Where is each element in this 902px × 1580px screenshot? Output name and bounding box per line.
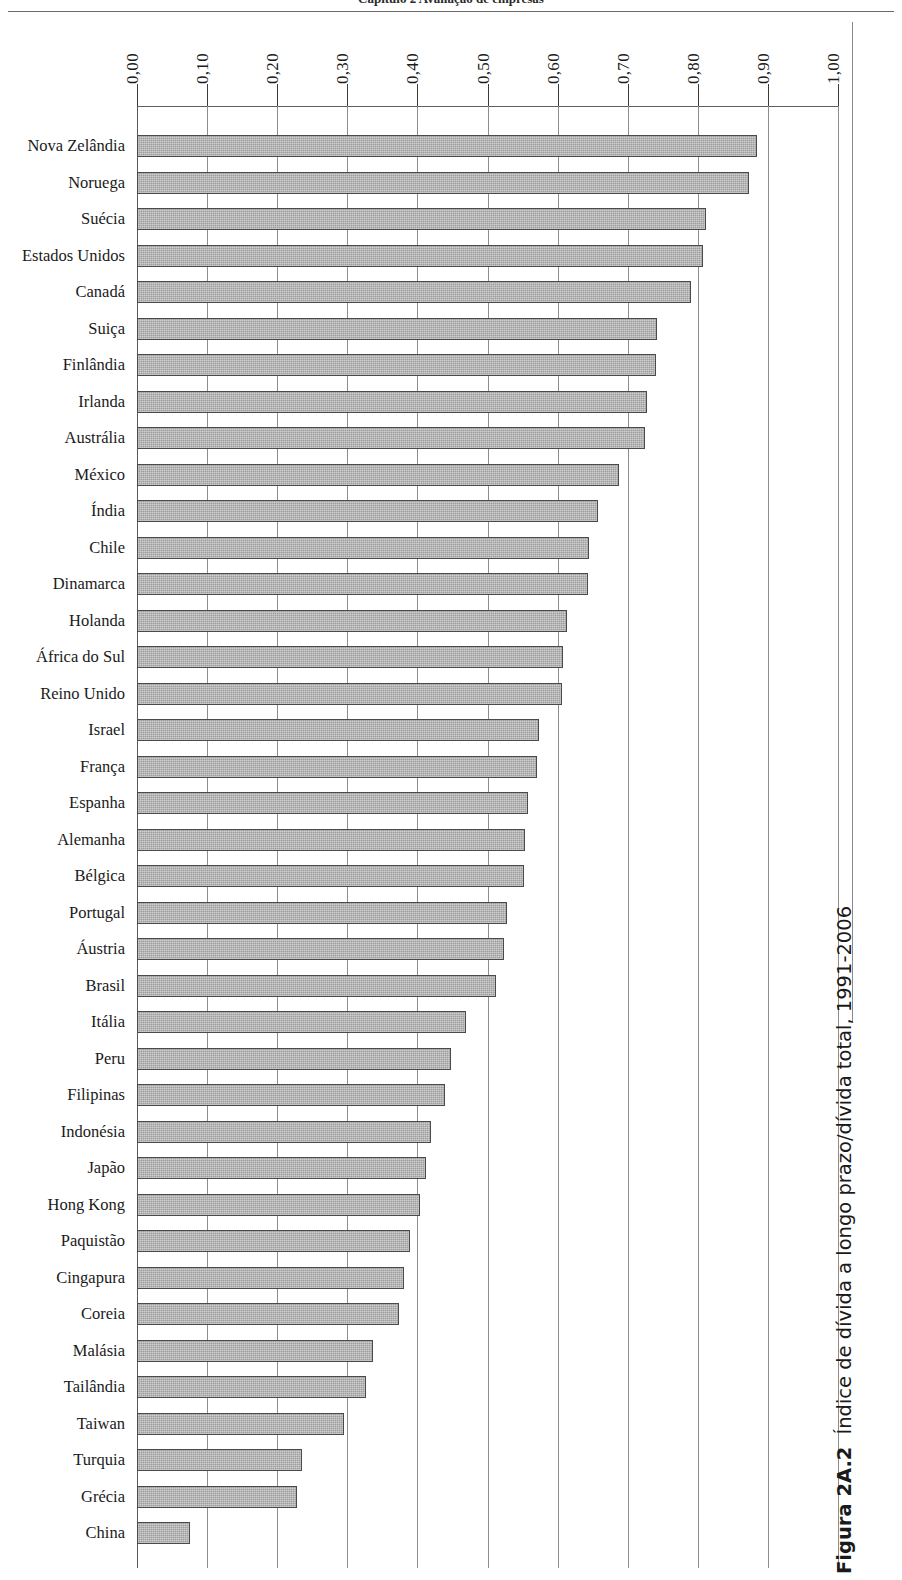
figure-page: Capítulo 2 Avaliação de empresas 0,000,1…	[0, 0, 902, 1580]
bar-row-label: México	[0, 457, 131, 494]
bar-row-label: Holanda	[0, 603, 131, 640]
bar	[137, 208, 706, 230]
bar-row-label: Grécia	[0, 1479, 131, 1516]
bar	[137, 1011, 466, 1033]
running-header: Capítulo 2 Avaliação de empresas	[0, 0, 902, 10]
bar-row-label: Estados Unidos	[0, 238, 131, 275]
bar-row: Austrália	[0, 420, 848, 457]
bar-row: Portugal	[0, 895, 848, 932]
bar-row-label: Bélgica	[0, 858, 131, 895]
bar	[137, 829, 525, 851]
bar-row: Espanha	[0, 785, 848, 822]
bar	[137, 683, 562, 705]
bar	[137, 245, 703, 267]
figure-number: Figura 2A.2	[833, 1447, 856, 1574]
bar	[137, 537, 589, 559]
bar	[137, 391, 647, 413]
axis-tick	[558, 84, 559, 106]
bar	[137, 1486, 297, 1508]
axis-tick	[488, 84, 489, 106]
axis-tick	[838, 84, 839, 106]
bar-row-label: Dinamarca	[0, 566, 131, 603]
bar-row-label: Portugal	[0, 895, 131, 932]
bar-row: Cingapura	[0, 1260, 848, 1297]
bar-row: França	[0, 749, 848, 786]
bar-row: Itália	[0, 1004, 848, 1041]
axis-tick-label: 0,60	[544, 53, 564, 84]
bar-row-label: França	[0, 749, 131, 786]
bar-row: Indonésia	[0, 1114, 848, 1151]
bar	[137, 1230, 410, 1252]
bar-row: Bélgica	[0, 858, 848, 895]
figure-caption: Figura 2A.2Índice de dívida a longo praz…	[856, 374, 902, 1574]
axis-tick-label: 0,50	[474, 53, 494, 84]
bar	[137, 975, 496, 997]
axis-tick-label: 0,80	[684, 53, 704, 84]
bar	[137, 1449, 302, 1471]
bar-row: Suiça	[0, 311, 848, 348]
bar-row: Grécia	[0, 1479, 848, 1516]
bar	[137, 354, 656, 376]
bar	[137, 1194, 420, 1216]
bar-row-label: Nova Zelândia	[0, 128, 131, 165]
bar-row-label: Suécia	[0, 201, 131, 238]
bar-row-label: Tailândia	[0, 1369, 131, 1406]
bar-row-label: Canadá	[0, 274, 131, 311]
bar-row-label: Áustria	[0, 931, 131, 968]
bar-row-label: Irlanda	[0, 384, 131, 421]
bar	[137, 1048, 451, 1070]
bar-row-label: China	[0, 1515, 131, 1552]
axis-tick-label: 0,10	[193, 53, 213, 84]
axis-tick-label: 0,40	[403, 53, 423, 84]
axis-tick	[698, 84, 699, 106]
bar	[137, 938, 504, 960]
axis-tick	[207, 84, 208, 106]
bar	[137, 281, 691, 303]
bar-row-label: Peru	[0, 1041, 131, 1078]
bar-row: Estados Unidos	[0, 238, 848, 275]
bar-row-label: Filipinas	[0, 1077, 131, 1114]
bar-row-label: Finlândia	[0, 347, 131, 384]
bar-rows: Nova ZelândiaNoruegaSuéciaEstados Unidos…	[0, 128, 848, 1580]
bar-chart: 0,000,100,200,300,400,500,600,700,800,90…	[0, 22, 848, 1580]
bar-row-label: Brasil	[0, 968, 131, 1005]
bar	[137, 1303, 399, 1325]
bar-row: Tailândia	[0, 1369, 848, 1406]
bar-row-label: Malásia	[0, 1333, 131, 1370]
bar	[137, 172, 749, 194]
axis-tick	[628, 84, 629, 106]
bar	[137, 610, 567, 632]
bar-row: China	[0, 1515, 848, 1552]
bar-row-label: Itália	[0, 1004, 131, 1041]
bar-row: Índia	[0, 493, 848, 530]
bar	[137, 318, 657, 340]
bar	[137, 1522, 190, 1544]
figure-caption-text: Índice de dívida a longo prazo/dívida to…	[833, 906, 856, 1435]
bar-row: Hong Kong	[0, 1187, 848, 1224]
bar-row-label: Noruega	[0, 165, 131, 202]
bar-row: Noruega	[0, 165, 848, 202]
bar	[137, 427, 645, 449]
axis-tick-label: 0,30	[333, 53, 353, 84]
bar	[137, 865, 524, 887]
bar-row-label: Taiwan	[0, 1406, 131, 1443]
bar-row: Coreia	[0, 1296, 848, 1333]
bar-row: África do Sul	[0, 639, 848, 676]
bar	[137, 135, 757, 157]
bar-row: Nova Zelândia	[0, 128, 848, 165]
bar-row-label: África do Sul	[0, 639, 131, 676]
bar-row-label: Alemanha	[0, 822, 131, 859]
bar-row: Alemanha	[0, 822, 848, 859]
bar	[137, 1121, 431, 1143]
bar	[137, 573, 588, 595]
bar	[137, 792, 528, 814]
bar	[137, 1413, 344, 1435]
bar-row-label: Espanha	[0, 785, 131, 822]
bar-row: Malásia	[0, 1333, 848, 1370]
bar-row-label: Suiça	[0, 311, 131, 348]
header-divider	[8, 11, 894, 12]
bar-row-label: Chile	[0, 530, 131, 567]
bar	[137, 902, 507, 924]
bar	[137, 719, 539, 741]
bar-row: Irlanda	[0, 384, 848, 421]
